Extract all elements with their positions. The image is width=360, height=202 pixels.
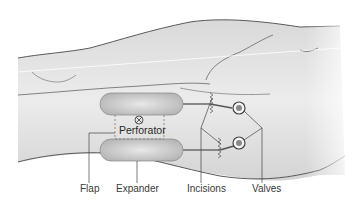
perforator-label: Perforator [119, 124, 166, 136]
flap-label: Flap [80, 183, 99, 194]
expander-label: Expander [116, 183, 159, 194]
diagram-canvas: Perforator Flap Expander Incisions Valve… [0, 0, 360, 202]
incisions-label: Incisions [187, 183, 226, 194]
limb-illustration [0, 0, 360, 202]
valves-label: Valves [252, 183, 281, 194]
